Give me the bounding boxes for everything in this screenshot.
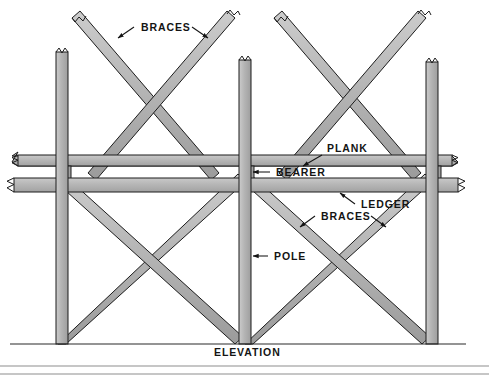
- label-plank: PLANK: [327, 142, 368, 154]
- pole-center: [239, 56, 251, 344]
- label-ledger: LEDGER: [361, 198, 410, 210]
- label-bearer: BEARER: [276, 166, 326, 178]
- label-pole: POLE: [274, 250, 306, 262]
- label-elevation: ELEVATION: [214, 346, 281, 358]
- pole-left: [56, 48, 68, 344]
- scaffold-drawing: BRACES PLANK BEARER LEDGER BRACES POLE E…: [0, 0, 489, 375]
- label-braces-bottom: BRACES: [321, 210, 371, 222]
- ledger-member: [7, 178, 465, 192]
- scaffold-elevation-diagram: BRACES PLANK BEARER LEDGER BRACES POLE E…: [0, 0, 489, 375]
- label-braces-top: BRACES: [141, 21, 191, 33]
- pole-right: [426, 58, 438, 344]
